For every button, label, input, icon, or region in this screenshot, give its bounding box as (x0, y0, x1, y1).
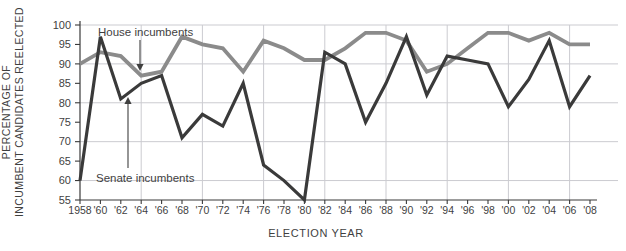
x-tick-label: '84 (338, 204, 352, 216)
x-tick-label: '62 (114, 204, 128, 216)
x-axis-title: ELECTION YEAR (268, 227, 364, 239)
x-tick-label: '70 (196, 204, 210, 216)
x-tick-label: '72 (216, 204, 230, 216)
x-tick-label: '96 (461, 204, 475, 216)
house-incumbents-line (80, 33, 590, 76)
x-tick-label: '80 (298, 204, 312, 216)
x-tick-label: '00 (502, 204, 516, 216)
senate-series-label: Senate incumbents (96, 172, 195, 184)
senate-arrow-head-icon (124, 97, 131, 104)
y-axis-title-line1: PERCENTAGE OF (0, 65, 12, 159)
y-tick-label: 60 (59, 174, 71, 186)
x-tick-label: '94 (440, 204, 454, 216)
y-tick-label: 85 (59, 77, 71, 89)
x-tick-label: '66 (155, 204, 169, 216)
x-tick-label: '60 (94, 204, 108, 216)
x-tick-label: '02 (522, 204, 536, 216)
x-tick-label: '76 (257, 204, 271, 216)
x-tick-label: '78 (277, 204, 291, 216)
y-tick-label: 65 (59, 155, 71, 167)
y-tick-label: 70 (59, 135, 71, 147)
x-tick-label: 1958 (68, 204, 92, 216)
house-series-label: House incumbents (98, 26, 193, 38)
x-tick-label: '86 (359, 204, 373, 216)
incumbent-reelection-chart: 5560657075808590951001958'60'62'64'66'68… (0, 0, 626, 251)
x-tick-label: '90 (400, 204, 414, 216)
y-axis-title-line2: INCUMBENT CANDIDATES REELECTED (13, 7, 25, 217)
x-tick-label: '68 (175, 204, 189, 216)
x-tick-label: '08 (583, 204, 597, 216)
x-tick-label: '64 (134, 204, 148, 216)
x-tick-label: '74 (236, 204, 250, 216)
y-tick-label: 100 (53, 19, 71, 31)
y-tick-label: 80 (59, 97, 71, 109)
y-tick-label: 90 (59, 58, 71, 70)
y-tick-label: 95 (59, 38, 71, 50)
x-tick-label: '88 (379, 204, 393, 216)
x-tick-label: '06 (563, 204, 577, 216)
x-tick-label: '92 (420, 204, 434, 216)
x-tick-label: '98 (481, 204, 495, 216)
senate-annotation: Senate incumbents (96, 97, 195, 184)
x-tick-label: '82 (318, 204, 332, 216)
line-chart-canvas: 5560657075808590951001958'60'62'64'66'68… (0, 0, 626, 251)
x-tick-label: '04 (542, 204, 556, 216)
y-tick-label: 75 (59, 116, 71, 128)
